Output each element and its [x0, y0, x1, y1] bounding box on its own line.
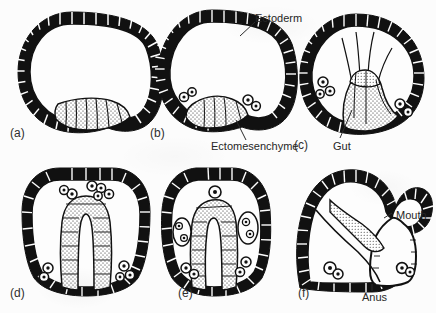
panel-letter-b: (b)	[150, 127, 165, 139]
panel-a	[15, 12, 163, 133]
panel-b	[155, 10, 297, 132]
callout-anus: Anus	[362, 292, 387, 303]
panel-f	[297, 170, 433, 292]
panel-d	[22, 168, 150, 296]
callout-ectoderm: Ectoderm	[255, 13, 302, 24]
panel-letter-e: (e)	[178, 287, 193, 299]
panel-e	[161, 167, 271, 296]
panel-letter-a: (a)	[10, 127, 25, 139]
gastrulation-figure	[0, 0, 436, 313]
panel-letter-d: (d)	[10, 287, 25, 299]
callout-gut: Gut	[333, 141, 351, 152]
panel-letter-f: (f)	[298, 287, 309, 299]
panel-c	[298, 14, 424, 134]
callout-mouth: Mouth	[396, 210, 427, 221]
callout-ectomesenchyme: Ectomesenchyme	[211, 141, 298, 152]
